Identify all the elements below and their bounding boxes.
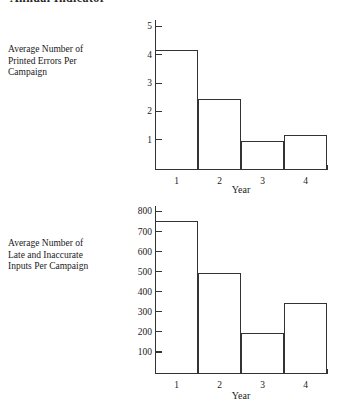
chart-1-y-axis-label: Average Number of Printed Errors Per Cam…	[8, 44, 100, 79]
chart-1-y-tick-label: 5	[147, 21, 152, 31]
chart-2-x-category-label: 2	[198, 380, 241, 390]
chart-2-x-axis-title: Year	[155, 390, 327, 401]
chart-2-y-tick-label: 800	[138, 206, 152, 216]
chart-1-plot-area: 123451234	[155, 20, 327, 170]
chart-2-plot-area: 1002003004005006007008001234	[155, 206, 327, 374]
chart-2-y-tick-label: 500	[138, 267, 152, 277]
chart-2-y-tick-800: 800	[156, 211, 162, 212]
chart-2-y-tick-label: 300	[138, 307, 152, 317]
chart-1-y-tick-label: 1	[147, 135, 152, 145]
table-row	[155, 221, 198, 373]
chart-2-y-axis-label: Average Number of Late and Inaccurate In…	[8, 238, 100, 273]
chart-1-y-tick-5: 5	[156, 26, 162, 27]
table-row	[155, 50, 198, 169]
chart-1-y-tick-label: 3	[147, 78, 152, 88]
table-row	[241, 141, 284, 169]
chart-2-x-category-label: 3	[241, 380, 284, 390]
chart-2-x-category-label: 4	[284, 380, 327, 390]
chart-2-y-tick-label: 600	[138, 247, 152, 257]
chart-2-x-tick	[327, 369, 328, 374]
table-row	[198, 99, 241, 168]
chart-2-y-tick-label: 200	[138, 327, 152, 337]
table-row	[198, 273, 241, 372]
table-row	[284, 135, 327, 169]
chart-2-y-tick-label: 100	[138, 347, 152, 357]
table-row	[241, 333, 284, 372]
chart-2-y-tick-label: 400	[138, 287, 152, 297]
chart-2-x-category-label: 1	[155, 380, 198, 390]
chart-late-inaccurate-inputs: Average Number of Late and Inaccurate In…	[0, 190, 343, 394]
chart-1-x-tick	[327, 165, 328, 170]
chart-1-y-tick-label: 4	[147, 50, 152, 60]
chart-1-y-tick-label: 2	[147, 106, 152, 116]
chart-2-y-tick-label: 700	[138, 227, 152, 237]
chart-errors-per-campaign: Average Number of Printed Errors Per Cam…	[0, 6, 343, 190]
table-row	[284, 303, 327, 372]
